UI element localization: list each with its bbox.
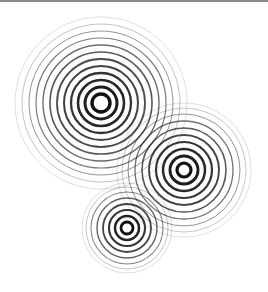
ring-group-large <box>15 17 187 189</box>
ring <box>117 103 251 237</box>
ring <box>50 52 152 154</box>
ring <box>85 87 117 119</box>
ring <box>115 216 139 240</box>
ring <box>121 222 133 234</box>
concentric-rings-illustration <box>0 0 268 292</box>
ring <box>156 142 212 198</box>
ring <box>71 73 131 133</box>
ring <box>128 114 240 226</box>
ring <box>103 204 151 252</box>
ring <box>149 135 219 205</box>
ring <box>82 183 172 273</box>
ring <box>177 163 191 177</box>
ring-group-small <box>82 183 172 273</box>
ring <box>97 198 157 258</box>
ring <box>64 66 138 140</box>
ring <box>22 24 180 182</box>
ring <box>43 45 159 161</box>
ring <box>170 156 198 184</box>
ring <box>91 192 163 264</box>
ring <box>86 187 168 269</box>
ring <box>92 94 110 112</box>
ring <box>36 38 166 168</box>
ring-group-medium <box>117 103 251 237</box>
ring <box>15 17 187 189</box>
